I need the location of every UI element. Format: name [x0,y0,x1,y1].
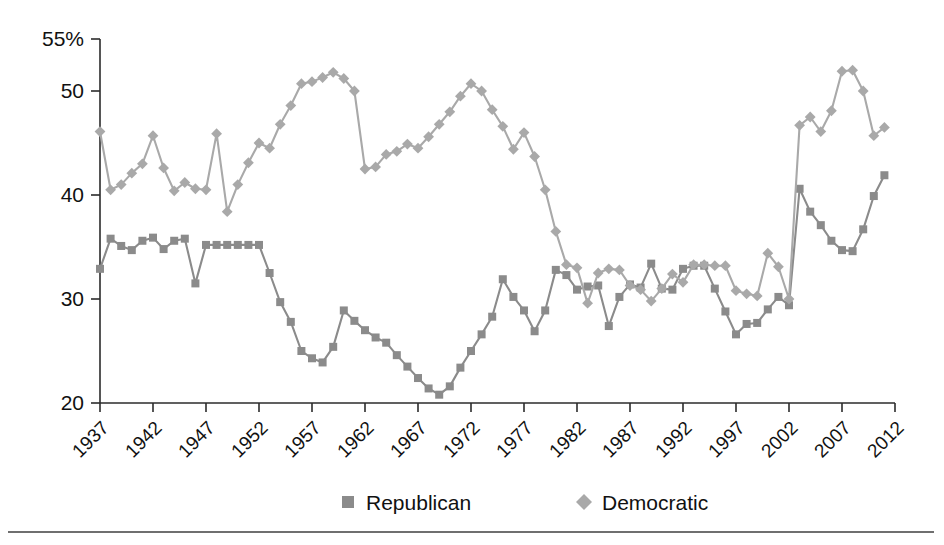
data-point-marker-democratic [508,144,519,155]
data-point-marker-democratic [519,127,530,138]
data-point-marker-democratic [858,86,869,97]
data-point-marker-republican [329,343,337,351]
data-point-marker-democratic [95,126,106,137]
x-tick-label: 1982 [545,417,590,462]
x-tick-label: 1947 [174,417,219,462]
y-tick-label: 20 [61,391,84,414]
data-point-marker-republican [403,363,411,371]
data-point-marker-republican [414,374,422,382]
data-point-marker-republican [478,330,486,338]
data-point-marker-republican [870,192,878,200]
data-point-marker-democratic [720,260,731,271]
data-point-marker-republican [562,271,570,279]
x-tick-label: 1967 [386,417,431,462]
x-tick-label: 1957 [280,417,325,462]
x-tick-label: 1962 [333,417,378,462]
data-point-marker-republican [308,354,316,362]
data-point-marker-democratic [741,288,752,299]
data-point-marker-republican [297,347,305,355]
data-point-marker-republican [647,260,655,268]
data-point-marker-democratic [158,163,169,174]
data-point-marker-democratic [105,184,116,195]
data-point-marker-republican [128,246,136,254]
data-point-marker-republican [509,293,517,301]
data-point-marker-republican [605,322,613,330]
x-tick-label: 1942 [121,417,166,462]
data-point-marker-republican [573,286,581,294]
data-point-marker-republican [160,245,168,253]
data-point-marker-republican [181,235,189,243]
data-point-marker-democratic [275,119,286,130]
data-point-marker-republican [467,347,475,355]
data-point-marker-republican [234,241,242,249]
data-point-marker-republican [350,317,358,325]
data-point-marker-democratic [360,164,371,175]
data-point-marker-democratic [550,226,561,237]
data-point-marker-republican [96,265,104,273]
data-point-marker-democratic [317,72,328,83]
data-point-marker-republican [584,283,592,291]
legend-marker-republican [342,496,354,508]
data-point-marker-republican [679,265,687,273]
data-point-marker-republican [774,293,782,301]
data-point-marker-republican [721,307,729,315]
data-point-marker-democratic [529,151,540,162]
data-point-marker-republican [753,319,761,327]
data-point-marker-republican [711,285,719,293]
data-point-marker-democratic [561,259,572,270]
y-tick-label: 55% [42,27,84,50]
series-line-republican [100,175,884,394]
y-tick-label: 40 [61,183,84,206]
data-point-marker-republican [319,358,327,366]
y-tick-label: 50 [61,79,84,102]
data-point-marker-democratic [328,67,339,78]
data-point-marker-republican [520,306,528,314]
x-tick-label: 2007 [810,417,855,462]
line-chart-plot: 55%50403020 1937194219471952195719621967… [0,0,944,545]
data-point-marker-democratic [847,65,858,76]
data-point-marker-republican [499,275,507,283]
data-point-marker-republican [117,242,125,250]
data-point-marker-democratic [826,105,837,116]
data-point-marker-republican [138,237,146,245]
data-point-marker-republican [764,305,772,313]
data-point-marker-democratic [232,179,243,190]
x-tick-label: 2012 [863,417,908,462]
legend-marker-democratic [576,494,592,510]
series-layer [95,65,890,399]
data-point-marker-republican [276,298,284,306]
x-tick-label: 1992 [651,417,696,462]
chart-container: 55%50403020 1937194219471952195719621967… [0,0,944,545]
legend-label-republican: Republican [366,491,471,514]
data-point-marker-republican [340,306,348,314]
x-tick-label: 1997 [704,417,749,462]
data-point-marker-republican [255,241,263,249]
data-point-marker-republican [838,246,846,254]
data-point-marker-republican [213,241,221,249]
data-point-marker-democratic [837,66,848,77]
data-point-marker-republican [743,320,751,328]
data-point-marker-republican [806,208,814,216]
data-point-marker-democratic [211,128,222,139]
data-point-marker-republican [202,241,210,249]
data-point-marker-democratic [201,184,212,195]
data-point-marker-republican [817,221,825,229]
data-point-marker-republican [531,327,539,335]
data-point-marker-republican [361,326,369,334]
data-point-marker-democratic [497,121,508,132]
data-point-marker-republican [382,339,390,347]
x-tick-label: 1977 [492,417,537,462]
data-point-marker-democratic [190,183,201,194]
data-point-marker-republican [827,237,835,245]
data-point-marker-democratic [603,263,614,274]
data-point-marker-republican [149,234,157,242]
legend-label-democratic: Democratic [602,491,708,514]
data-point-marker-democratic [709,260,720,271]
x-tick-label: 2002 [757,417,802,462]
bottom-divider [8,531,934,533]
data-point-marker-republican [393,351,401,359]
x-tick-label: 1952 [227,417,272,462]
data-point-marker-republican [446,382,454,390]
data-point-marker-democratic [593,268,604,279]
chart-legend: RepublicanDemocratic [0,488,944,528]
